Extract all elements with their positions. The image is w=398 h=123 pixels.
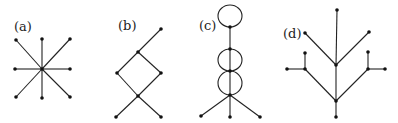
graph-vertex — [68, 95, 72, 99]
graph-vertex — [228, 93, 232, 97]
graph-vertex — [228, 69, 232, 73]
graph-vertex — [383, 67, 387, 71]
graph-edge — [201, 95, 230, 116]
graph-vertex — [228, 47, 232, 51]
graph-edge — [138, 29, 161, 52]
graph-vertex — [303, 51, 307, 55]
graph-edge — [305, 33, 336, 65]
graph-vertex — [303, 31, 307, 35]
graph-vertex — [159, 27, 163, 31]
graph-vertex — [366, 67, 370, 71]
graph-vertex — [136, 50, 140, 54]
loop-edge — [218, 5, 242, 27]
panel-d: (d) — [283, 8, 387, 119]
graph-vertex — [159, 71, 163, 75]
graph-vertex — [334, 115, 338, 119]
graph-vertex — [40, 67, 44, 71]
graph-vertex — [13, 67, 17, 71]
graph-vertex — [136, 94, 140, 98]
graph-vertex — [366, 50, 370, 54]
graph-vertex — [159, 115, 163, 119]
panel-c: (c) — [199, 5, 262, 119]
panel-label: (b) — [118, 18, 136, 33]
graph-vertex — [303, 67, 307, 71]
panel-a: (a) — [13, 19, 72, 100]
graph-vertex — [40, 96, 44, 100]
graph-vertex — [367, 30, 371, 34]
graph-vertex — [285, 67, 289, 71]
graph-edge — [336, 69, 368, 101]
graph-vertex — [14, 38, 18, 42]
graph-edge — [230, 95, 260, 117]
graph-vertex — [334, 63, 338, 67]
graph-edge — [138, 96, 161, 117]
graph-vertex — [228, 115, 232, 119]
graph-edge — [116, 96, 138, 117]
graph-edge — [336, 10, 337, 65]
graph-vertex — [199, 114, 203, 118]
graph-vertex — [68, 37, 72, 41]
panel-label: (a) — [14, 19, 32, 34]
graph-vertex — [114, 115, 118, 119]
panel-b: (b) — [114, 18, 163, 119]
graph-edge — [16, 40, 42, 69]
graph-vertex — [40, 37, 44, 41]
panel-label: (c) — [199, 18, 216, 33]
graph-vertex — [115, 71, 119, 75]
graph-edge — [42, 39, 70, 69]
graph-edge — [138, 52, 161, 73]
graph-figure: (a) (b) (c) (d) — [0, 0, 398, 123]
graph-edge — [336, 32, 369, 65]
graph-edge — [305, 69, 336, 101]
graph-vertex — [334, 99, 338, 103]
graph-edge — [138, 73, 161, 96]
graph-vertex — [68, 67, 72, 71]
graph-edge — [16, 69, 42, 97]
graph-vertex — [14, 95, 18, 99]
graph-edge — [117, 52, 138, 73]
graph-vertex — [258, 115, 262, 119]
panel-label: (d) — [283, 26, 301, 41]
graph-vertex — [228, 25, 232, 29]
graph-edge — [42, 69, 70, 97]
graph-edge — [117, 73, 138, 96]
graph-vertex — [335, 8, 339, 12]
